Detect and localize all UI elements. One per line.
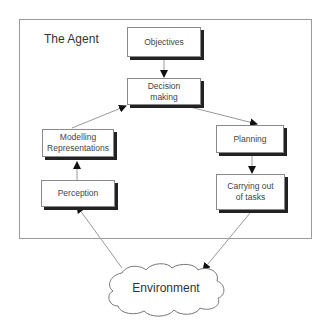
node-perception-label: Perception bbox=[58, 188, 99, 199]
edge-modelling-decision bbox=[72, 106, 126, 128]
node-decision-label-1: Decision bbox=[148, 81, 181, 92]
node-decision-label-2: making bbox=[150, 92, 177, 103]
node-objectives-label: Objectives bbox=[144, 37, 184, 48]
node-planning: Planning bbox=[216, 125, 284, 153]
node-objectives: Objectives bbox=[127, 27, 201, 57]
node-modelling-representations: Modelling Representations bbox=[42, 129, 114, 157]
node-environment-label: Environment bbox=[108, 281, 224, 295]
node-planning-label: Planning bbox=[233, 134, 266, 145]
node-modelling-label-2: Representations bbox=[47, 143, 109, 154]
edge-carrying-environment bbox=[203, 213, 250, 270]
edge-decision-planning bbox=[190, 107, 257, 124]
node-carrying-label-2: of tasks bbox=[236, 192, 265, 203]
node-modelling-label-1: Modelling bbox=[60, 132, 96, 143]
edge-environment-perception bbox=[77, 206, 122, 268]
node-perception: Perception bbox=[41, 180, 115, 207]
node-carrying-label-1: Carrying out bbox=[227, 181, 273, 192]
node-decision-making: Decision making bbox=[127, 78, 201, 105]
node-carrying-out-of-tasks: Carrying out of tasks bbox=[216, 174, 285, 210]
